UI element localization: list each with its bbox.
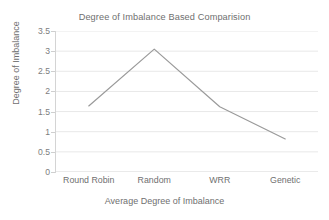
x-axis-title: Average Degree of Imbalance	[0, 196, 329, 206]
y-tick-label: 1.5	[18, 107, 50, 117]
y-tick-mark	[51, 152, 55, 153]
y-tick-mark	[51, 31, 55, 32]
gridlines	[56, 31, 318, 172]
x-tick-label: Random	[138, 175, 171, 185]
y-tick-label: 1	[18, 127, 50, 137]
plot-svg	[56, 31, 318, 172]
y-axis-tick-labels: 00.511.522.533.5	[18, 31, 50, 172]
plot-area	[56, 31, 318, 172]
x-axis-tick-labels: Round RobinRandomWRRGenetic	[56, 175, 318, 189]
y-tick-label: 3.5	[18, 26, 50, 36]
y-tick-label: 2	[18, 86, 50, 96]
chart-title: Degree of Imbalance Based Comparision	[0, 12, 329, 22]
y-tick-mark	[51, 71, 55, 72]
y-tick-label: 0	[18, 167, 50, 177]
y-tick-mark	[51, 132, 55, 133]
y-tick-label: 0.5	[18, 147, 50, 157]
chart-container: Degree of Imbalance Based Comparision De…	[0, 0, 329, 220]
x-tick-label: WRR	[209, 175, 230, 185]
y-tick-mark	[51, 172, 55, 173]
series-line-degree-of-imbalance	[89, 49, 286, 139]
y-tick-mark	[51, 112, 55, 113]
x-tick-label: Genetic	[270, 175, 300, 185]
y-tick-mark	[51, 91, 55, 92]
x-tick-label: Round Robin	[63, 175, 114, 185]
y-tick-label: 2.5	[18, 66, 50, 76]
y-tick-label: 3	[18, 46, 50, 56]
y-tick-mark	[51, 51, 55, 52]
